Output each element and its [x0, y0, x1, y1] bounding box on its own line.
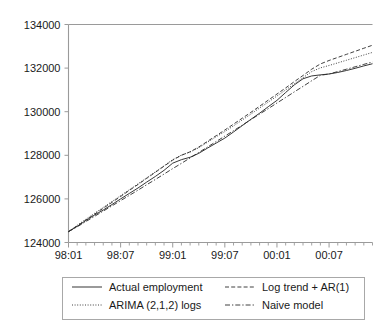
x-tick-label: 98:01	[55, 249, 83, 261]
x-axis-tick-labels: 98:0198:0799:0199:0700:0100:07	[55, 249, 343, 261]
legend: Actual employmentLog trend + AR(1)ARIMA …	[63, 278, 365, 320]
x-tick-label: 99:07	[211, 249, 239, 261]
y-tick-label: 134000	[24, 19, 61, 31]
axis-frame	[69, 25, 373, 243]
data-series-group	[69, 45, 373, 231]
y-axis-tick-labels: 124000126000128000130000132000134000	[24, 19, 61, 249]
y-tick-label: 128000	[24, 149, 61, 161]
legend-label: Actual employment	[109, 281, 203, 293]
chart-container: 124000126000128000130000132000134000 98:…	[0, 0, 385, 325]
y-tick-label: 124000	[24, 237, 61, 249]
x-tick-label: 00:01	[263, 249, 291, 261]
series-line	[69, 64, 373, 232]
y-tick-label: 132000	[24, 62, 61, 74]
legend-label: Naive model	[262, 299, 323, 311]
legend-label: ARIMA (2,1,2) logs	[109, 299, 202, 311]
plot-area	[69, 25, 373, 243]
y-axis-ticks	[65, 25, 69, 243]
x-tick-label: 00:07	[315, 249, 343, 261]
y-tick-label: 130000	[24, 106, 61, 118]
series-line	[69, 62, 373, 232]
x-axis-minor-ticks	[69, 243, 373, 248]
x-tick-label: 98:07	[107, 249, 135, 261]
y-tick-label: 126000	[24, 193, 61, 205]
legend-label: Log trend + AR(1)	[262, 281, 349, 293]
x-tick-label: 99:01	[159, 249, 187, 261]
employment-forecast-chart: 124000126000128000130000132000134000 98:…	[0, 0, 385, 325]
